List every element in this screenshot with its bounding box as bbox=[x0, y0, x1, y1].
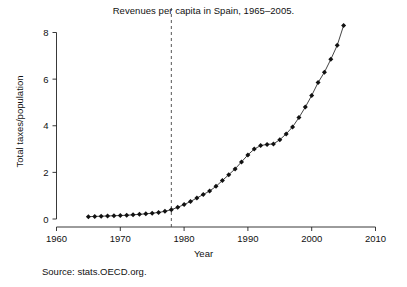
data-point-marker bbox=[188, 199, 193, 204]
y-tick-label: 6 bbox=[43, 74, 48, 85]
y-tick-label: 8 bbox=[43, 27, 48, 38]
data-point-marker bbox=[162, 209, 167, 214]
data-point-marker bbox=[111, 213, 116, 218]
data-point-marker bbox=[137, 212, 142, 217]
chart-figure: Revenues per capita in Spain, 1965–2005.… bbox=[0, 0, 407, 287]
data-point-marker bbox=[265, 142, 270, 147]
data-point-marker bbox=[201, 192, 206, 197]
data-point-marker bbox=[150, 211, 155, 216]
data-point-marker bbox=[175, 205, 180, 210]
data-point-marker bbox=[92, 214, 97, 219]
x-tick-label: 2010 bbox=[365, 233, 386, 244]
y-tick-label: 4 bbox=[43, 120, 48, 131]
data-point-marker bbox=[156, 210, 161, 215]
axes-group: 19601970198019902000201002468 bbox=[43, 27, 386, 244]
data-markers-group bbox=[86, 23, 346, 219]
data-point-marker bbox=[169, 207, 174, 212]
x-tick-label: 1990 bbox=[237, 233, 258, 244]
data-point-marker bbox=[86, 214, 91, 219]
data-point-marker bbox=[131, 212, 136, 217]
data-point-marker bbox=[194, 196, 199, 201]
data-point-marker bbox=[143, 211, 148, 216]
data-point-marker bbox=[335, 43, 340, 48]
data-point-marker bbox=[124, 213, 129, 218]
x-tick-label: 1970 bbox=[110, 233, 131, 244]
data-point-marker bbox=[296, 115, 301, 120]
plot-area: 19601970198019902000201002468 bbox=[0, 0, 407, 245]
y-tick-label: 0 bbox=[43, 214, 48, 225]
x-tick-label: 2000 bbox=[301, 233, 322, 244]
data-point-marker bbox=[303, 105, 308, 110]
x-tick-label: 1960 bbox=[46, 233, 67, 244]
data-point-marker bbox=[182, 202, 187, 207]
data-point-marker bbox=[118, 213, 123, 218]
data-point-marker bbox=[258, 143, 263, 148]
x-axis-label: Year bbox=[0, 248, 407, 259]
data-point-marker bbox=[341, 23, 346, 28]
data-point-marker bbox=[328, 57, 333, 62]
data-point-marker bbox=[322, 70, 327, 75]
data-point-marker bbox=[309, 93, 314, 98]
data-point-marker bbox=[105, 213, 110, 218]
data-point-marker bbox=[271, 141, 276, 146]
y-tick-label: 2 bbox=[43, 167, 48, 178]
source-note: Source: stats.OECD.org. bbox=[42, 266, 147, 277]
data-point-marker bbox=[316, 80, 321, 85]
data-point-marker bbox=[99, 214, 104, 219]
x-tick-label: 1980 bbox=[174, 233, 195, 244]
